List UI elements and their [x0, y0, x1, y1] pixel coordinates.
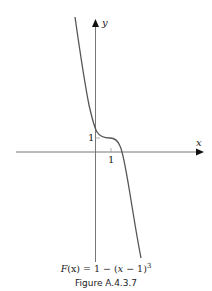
equation-lhs-var: (x): [67, 263, 80, 274]
y-axis-label: y: [102, 18, 108, 28]
figure-a-4-3-7: y x 1 1 F(x) = 1 − (x − 1)3 Figure A.4.3…: [0, 0, 212, 291]
x-axis-label: x: [196, 138, 202, 148]
figure-caption: Figure A.4.3.7: [0, 279, 212, 288]
graph-canvas: [0, 0, 212, 291]
y-axis-arrow-icon: [92, 19, 99, 27]
x-tick-label: 1: [108, 155, 114, 165]
equation-rhs-prefix: = 1 − (: [80, 263, 118, 274]
function-curve: [75, 17, 141, 258]
equation-exponent: 3: [147, 262, 151, 270]
y-tick-label: 1: [88, 133, 94, 143]
x-axis-arrow-icon: [196, 149, 204, 156]
function-equation: F(x) = 1 − (x − 1)3: [0, 263, 212, 274]
equation-rhs-suffix: − 1): [123, 263, 147, 274]
